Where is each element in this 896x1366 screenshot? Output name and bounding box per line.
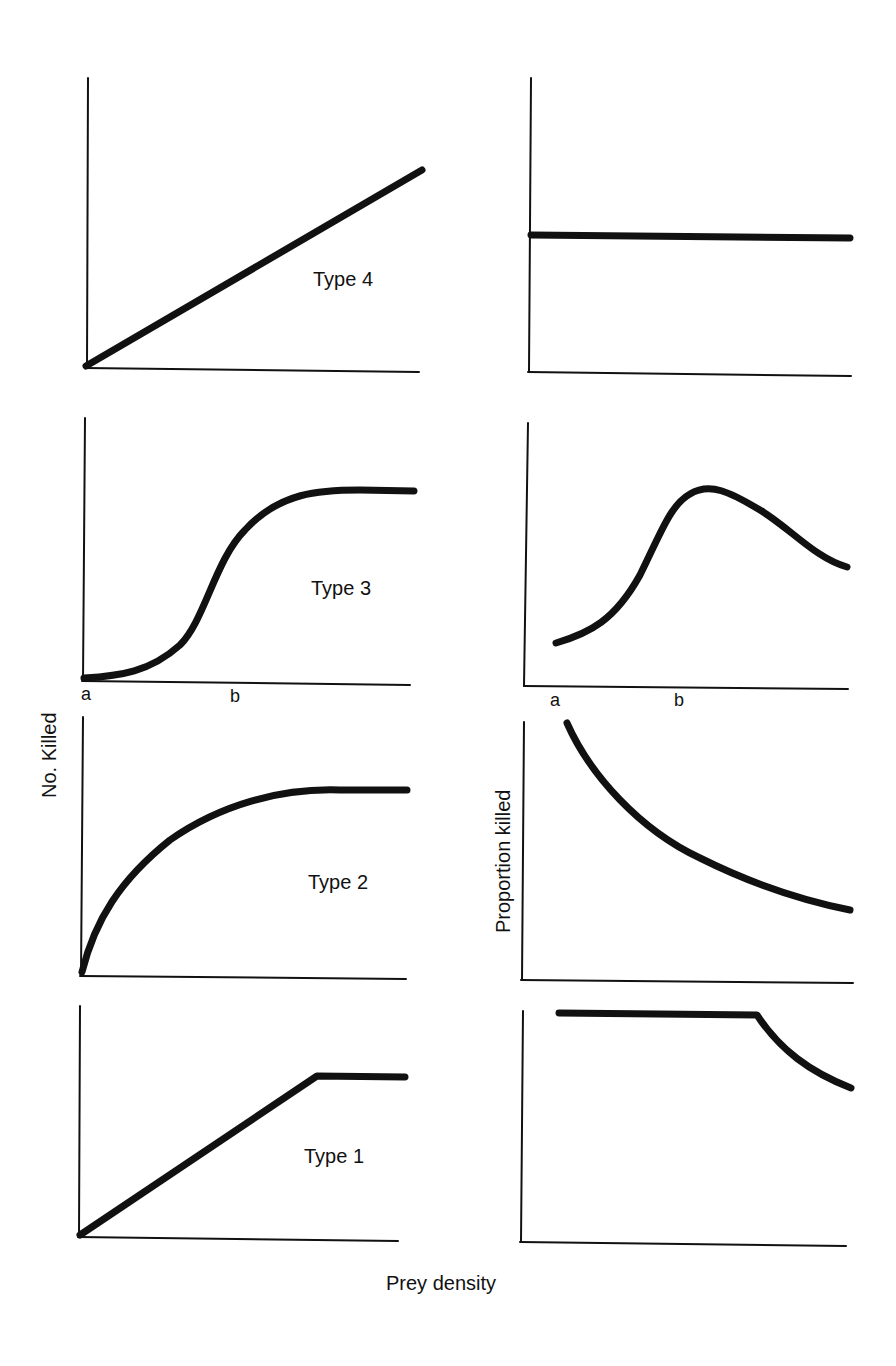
label-type3: Type 3 — [311, 577, 371, 600]
label-type1: Type 1 — [304, 1145, 364, 1168]
label-type4: Type 4 — [313, 268, 373, 291]
y-axis-label-right: Proportion killed — [492, 790, 515, 933]
tick-a-right: a — [550, 690, 560, 711]
panel-type4-proportion-killed — [528, 78, 851, 376]
panel-type2-number-killed — [80, 717, 407, 979]
panel-type1-proportion-killed — [520, 1011, 851, 1246]
functional-response-figure — [0, 0, 896, 1366]
x-axis-label: Prey density — [386, 1272, 496, 1295]
tick-b-left: b — [230, 686, 240, 707]
y-axis-label-left: No. Killed — [38, 712, 61, 798]
tick-a-left: a — [81, 684, 91, 705]
label-type2: Type 2 — [308, 871, 368, 894]
panel-type3-proportion-killed — [524, 423, 848, 689]
tick-b-right: b — [674, 690, 684, 711]
panel-type2-proportion-killed — [521, 722, 853, 983]
panel-type1-number-killed — [78, 1006, 405, 1241]
panel-type4-number-killed — [85, 78, 422, 372]
panel-type3-number-killed — [82, 418, 414, 685]
